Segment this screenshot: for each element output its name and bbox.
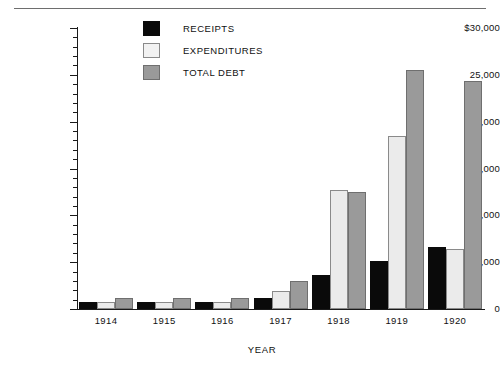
- y-axis-minor-tick: [73, 112, 78, 113]
- chart-legend: RECEIPTSEXPENDITURESTOTAL DEBT: [143, 18, 333, 84]
- y-axis-minor-tick: [73, 65, 78, 66]
- bar-group: [370, 28, 424, 309]
- bar-chart-figure: $ MILLIONS 05,00010,00015,00020,00025,00…: [0, 0, 500, 370]
- x-axis-tick-label-1916: 1916: [192, 315, 252, 326]
- legend-label: TOTAL DEBT: [183, 67, 245, 78]
- y-axis-minor-tick: [73, 56, 78, 57]
- y-axis-minor-tick: [73, 131, 78, 132]
- y-axis-minor-tick: [73, 253, 78, 254]
- legend-item-receipts[interactable]: RECEIPTS: [143, 18, 333, 39]
- y-axis-major-tick: [70, 262, 78, 263]
- y-axis-minor-tick: [73, 84, 78, 85]
- bar-expenditures-1920: [446, 249, 464, 309]
- bar-debt-1918: [348, 192, 366, 309]
- legend-item-debt[interactable]: TOTAL DEBT: [143, 62, 333, 83]
- y-axis-major-tick: [70, 215, 78, 216]
- x-axis-tick-label-1918: 1918: [309, 315, 369, 326]
- bar-expenditures-1915: [155, 302, 173, 309]
- x-axis-title-text: YEAR: [248, 344, 277, 355]
- bar-receipts-1916: [195, 302, 213, 309]
- legend-swatch-debt: [143, 65, 160, 80]
- y-axis-minor-tick: [73, 187, 78, 188]
- y-axis-minor-tick: [73, 225, 78, 226]
- y-axis-minor-tick: [73, 94, 78, 95]
- bar-debt-1920: [464, 81, 482, 309]
- bar-expenditures-1918: [330, 190, 348, 309]
- legend-label: RECEIPTS: [183, 23, 235, 34]
- legend-item-expenditures[interactable]: EXPENDITURES: [143, 40, 333, 61]
- x-axis-tick-label-1919: 1919: [367, 315, 427, 326]
- bar-expenditures-1916: [213, 302, 231, 309]
- y-axis-minor-tick: [73, 178, 78, 179]
- y-axis-minor-tick: [73, 197, 78, 198]
- y-axis-major-tick: [70, 122, 78, 123]
- y-axis-minor-tick: [73, 290, 78, 291]
- y-axis-minor-tick: [73, 47, 78, 48]
- bar-expenditures-1917: [272, 291, 290, 309]
- x-axis-line: [77, 309, 485, 310]
- bar-debt-1917: [290, 281, 308, 309]
- y-axis-major-tick: [70, 309, 78, 310]
- y-axis-minor-tick: [73, 103, 78, 104]
- bar-group: [428, 28, 482, 309]
- x-axis-tick-label-1917: 1917: [251, 315, 311, 326]
- y-axis-minor-tick: [73, 281, 78, 282]
- bar-debt-1915: [173, 298, 191, 309]
- y-axis-major-tick: [70, 28, 78, 29]
- bar-expenditures-1914: [97, 302, 115, 309]
- x-axis-tick-label-1915: 1915: [134, 315, 194, 326]
- y-axis-minor-tick: [73, 243, 78, 244]
- legend-swatch-expenditures: [143, 43, 160, 58]
- bar-debt-1919: [406, 70, 424, 309]
- y-axis-minor-tick: [73, 159, 78, 160]
- bar-receipts-1914: [79, 302, 97, 309]
- bar-receipts-1920: [428, 247, 446, 309]
- header-divider: [14, 8, 486, 9]
- y-axis-minor-tick: [73, 140, 78, 141]
- y-axis-minor-tick: [73, 234, 78, 235]
- y-axis-minor-tick: [73, 37, 78, 38]
- bar-expenditures-1919: [388, 136, 406, 309]
- legend-label: EXPENDITURES: [183, 45, 263, 56]
- bar-debt-1916: [231, 298, 249, 309]
- x-axis-tick-label-1920: 1920: [425, 315, 485, 326]
- bar-receipts-1919: [370, 261, 388, 309]
- y-axis-minor-tick: [73, 150, 78, 151]
- bar-debt-1914: [115, 298, 133, 309]
- y-axis-minor-tick: [73, 300, 78, 301]
- bar-group: [79, 28, 133, 309]
- y-axis-minor-tick: [73, 272, 78, 273]
- bar-receipts-1918: [312, 275, 330, 309]
- bar-receipts-1915: [137, 302, 155, 309]
- y-axis-major-tick: [70, 75, 78, 76]
- y-axis-major-tick: [70, 169, 78, 170]
- bar-receipts-1917: [254, 298, 272, 309]
- legend-swatch-receipts: [143, 21, 160, 36]
- y-axis-minor-tick: [73, 206, 78, 207]
- x-axis-tick-label-1914: 1914: [76, 315, 136, 326]
- x-axis-title: YEAR: [0, 344, 500, 355]
